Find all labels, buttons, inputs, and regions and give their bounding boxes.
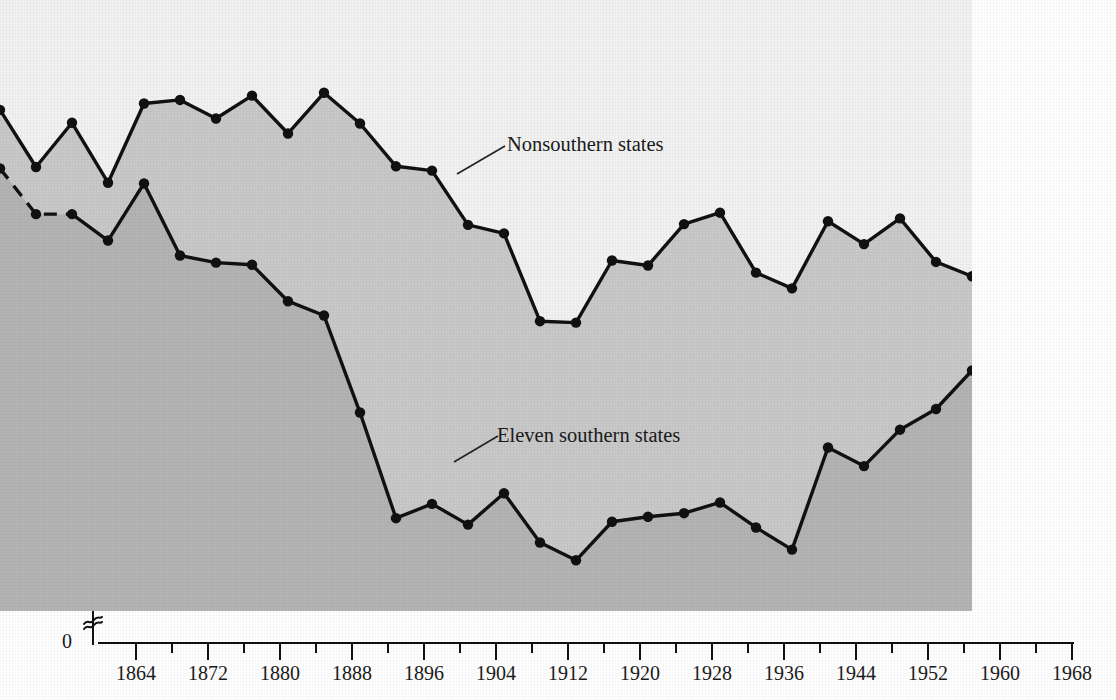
x-tick-major: [207, 643, 209, 660]
southern-data-point: [391, 513, 401, 523]
series-label-southern: Eleven southern states: [497, 424, 680, 447]
x-tick-label: 1872: [168, 662, 248, 685]
leader-line-nonsouthern: [455, 140, 515, 176]
nonsouthern-data-point: [103, 178, 113, 188]
southern-data-point: [715, 497, 725, 507]
x-tick-label: 1968: [1032, 662, 1112, 685]
nonsouthern-data-point: [427, 165, 437, 175]
x-tick-label: 1960: [960, 662, 1040, 685]
nonsouthern-data-point: [175, 95, 185, 105]
southern-data-point: [67, 209, 77, 219]
southern-data-point: [139, 178, 149, 188]
southern-data-point: [427, 499, 437, 509]
x-tick-minor: [891, 643, 893, 653]
southern-data-point: [571, 555, 581, 565]
leader-line-southern: [452, 430, 506, 466]
x-tick-minor: [459, 643, 461, 653]
nonsouthern-data-point: [931, 257, 941, 267]
nonsouthern-data-point: [499, 228, 509, 238]
nonsouthern-data-point: [139, 98, 149, 108]
x-tick-label: 1880: [240, 662, 320, 685]
southern-data-point: [319, 310, 329, 320]
y-tick-label: 0: [26, 630, 72, 653]
southern-data-point: [247, 260, 257, 270]
southern-data-point: [103, 235, 113, 245]
nonsouthern-data-point: [535, 316, 545, 326]
nonsouthern-data-point: [283, 128, 293, 138]
nonsouthern-data-point: [247, 90, 257, 100]
nonsouthern-data-point: [571, 317, 581, 327]
southern-data-point: [31, 209, 41, 219]
southern-data-point: [787, 544, 797, 554]
x-tick-minor: [171, 643, 173, 653]
x-tick-minor: [315, 643, 317, 653]
nonsouthern-data-point: [211, 113, 221, 123]
x-tick-major: [423, 643, 425, 660]
southern-data-point: [931, 404, 941, 414]
nonsouthern-data-point: [607, 255, 617, 265]
southern-data-point: [823, 442, 833, 452]
x-tick-label: 1904: [456, 662, 536, 685]
x-tick-major: [1071, 643, 1073, 660]
x-tick-major: [711, 643, 713, 660]
chart-plot-area: [0, 0, 972, 611]
x-tick-label: 1864: [96, 662, 176, 685]
chart-root: Percentage of estimated eligible elector…: [0, 0, 1116, 700]
nonsouthern-data-point: [319, 88, 329, 98]
southern-data-point: [283, 296, 293, 306]
southern-data-point: [643, 512, 653, 522]
nonsouthern-data-point: [895, 213, 905, 223]
x-tick-minor: [963, 643, 965, 653]
nonsouthern-data-point: [355, 118, 365, 128]
nonsouthern-data-point: [679, 219, 689, 229]
nonsouthern-data-point: [643, 260, 653, 270]
southern-data-point: [607, 517, 617, 527]
x-tick-minor: [603, 643, 605, 653]
x-tick-label: 1944: [816, 662, 896, 685]
southern-data-point: [211, 257, 221, 267]
x-tick-major: [135, 643, 137, 660]
x-tick-major: [567, 643, 569, 660]
nonsouthern-data-point: [391, 161, 401, 171]
nonsouthern-data-point: [823, 216, 833, 226]
x-tick-label: 1920: [600, 662, 680, 685]
x-tick-label: 1896: [384, 662, 464, 685]
x-tick-label: 1936: [744, 662, 824, 685]
x-tick-major: [927, 643, 929, 660]
nonsouthern-data-point: [67, 118, 77, 128]
x-tick-minor: [747, 643, 749, 653]
nonsouthern-data-point: [751, 267, 761, 277]
nonsouthern-data-point: [859, 239, 869, 249]
x-tick-major: [999, 643, 1001, 660]
southern-data-point: [751, 522, 761, 532]
x-tick-minor: [819, 643, 821, 653]
x-tick-minor: [243, 643, 245, 653]
southern-data-point: [859, 461, 869, 471]
southern-data-point: [895, 424, 905, 434]
x-tick-minor: [675, 643, 677, 653]
nonsouthern-data-point: [31, 162, 41, 172]
southern-data-point: [535, 537, 545, 547]
nonsouthern-data-point: [715, 207, 725, 217]
southern-data-point: [463, 519, 473, 529]
x-tick-minor: [531, 643, 533, 653]
x-tick-major: [495, 643, 497, 660]
x-tick-major: [855, 643, 857, 660]
x-tick-label: 1928: [672, 662, 752, 685]
southern-data-point: [355, 407, 365, 417]
x-tick-label: 1952: [888, 662, 968, 685]
x-tick-minor: [1035, 643, 1037, 653]
x-tick-major: [639, 643, 641, 660]
series-label-nonsouthern: Nonsouthern states: [507, 133, 664, 156]
nonsouthern-data-point: [463, 220, 473, 230]
x-tick-major: [279, 643, 281, 660]
x-tick-minor: [387, 643, 389, 653]
southern-data-point: [679, 508, 689, 518]
southern-data-point: [175, 250, 185, 260]
x-tick-major: [783, 643, 785, 660]
x-tick-label: 1888: [312, 662, 392, 685]
y-axis-break-icon: [82, 608, 104, 634]
southern-data-point: [499, 488, 509, 498]
x-tick-major: [351, 643, 353, 660]
nonsouthern-data-point: [787, 283, 797, 293]
